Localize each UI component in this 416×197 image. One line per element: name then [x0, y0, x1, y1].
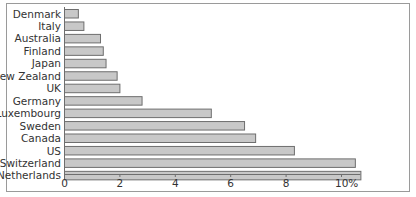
bar-japan	[65, 59, 107, 68]
bar-switzerland	[65, 159, 356, 168]
bar-luxembourg	[65, 109, 212, 118]
category-labels: DenmarkItalyAustraliaFinlandJapanNew Zea…	[0, 8, 62, 182]
category-label: Italy	[38, 20, 61, 32]
category-label: Denmark	[13, 8, 62, 20]
bar-denmark	[65, 10, 79, 19]
bars-group	[65, 10, 361, 180]
category-label: Switzerland	[0, 157, 61, 169]
bar-new-zealand	[65, 72, 118, 81]
x-tick-label: 8	[283, 177, 290, 189]
bar-italy	[65, 22, 84, 31]
x-tick-label: 6	[227, 177, 234, 189]
x-tick-label: 10%	[335, 177, 358, 189]
category-label: Netherlands	[0, 169, 61, 181]
x-tick-label: 4	[172, 177, 179, 189]
bar-chart: DenmarkItalyAustraliaFinlandJapanNew Zea…	[0, 0, 416, 197]
bar-uk	[65, 84, 120, 93]
bar-germany	[65, 97, 143, 106]
category-label: Sweden	[20, 120, 62, 132]
category-label: Japan	[31, 57, 61, 69]
bar-netherlands	[65, 171, 361, 180]
x-tick-label: 2	[117, 177, 124, 189]
category-label: US	[47, 145, 62, 157]
bar-sweden	[65, 122, 245, 131]
category-label: Luxembourg	[0, 107, 61, 119]
bar-australia	[65, 34, 101, 43]
bar-canada	[65, 134, 256, 143]
category-label: UK	[46, 82, 62, 94]
bar-finland	[65, 47, 104, 56]
x-tick-label: 0	[61, 177, 68, 189]
bar-us	[65, 146, 295, 155]
category-label: Finland	[23, 45, 61, 57]
category-label: New Zealand	[0, 70, 61, 82]
category-label: Germany	[13, 95, 61, 107]
category-label: Australia	[15, 32, 61, 44]
category-label: Canada	[21, 132, 61, 144]
